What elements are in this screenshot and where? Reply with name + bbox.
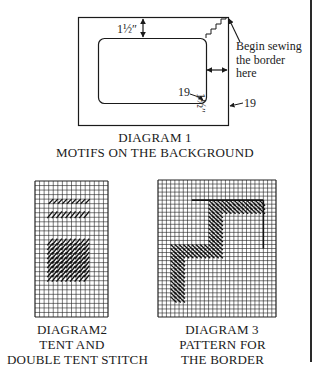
diagram-3-title: DIAGRAM 3 (172, 323, 272, 337)
diagram-3-grid (0, 0, 317, 376)
diagram-3-subtitle-2: THE BORDER (165, 353, 280, 367)
diagram-3-subtitle-1: PATTERN FOR (165, 338, 280, 352)
